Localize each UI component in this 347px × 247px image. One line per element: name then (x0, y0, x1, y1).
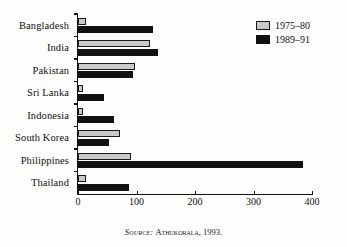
y-tick-mark (74, 148, 78, 149)
bar-indonesia-1989-91 (78, 116, 114, 123)
bar-india-1989-91 (78, 49, 158, 56)
y-tick-mark (74, 126, 78, 127)
x-tick-label-0: 0 (76, 196, 81, 207)
bar-group-indonesia (78, 104, 312, 127)
bar-philippines-1975-80 (78, 153, 131, 160)
bar-bangladesh-1989-91 (78, 26, 153, 33)
bar-thailand-1989-91 (78, 184, 129, 191)
x-tick-mark (312, 191, 313, 195)
bar-pakistan-1975-80 (78, 63, 135, 70)
y-tick-mark (74, 81, 78, 82)
y-tick-mark (74, 171, 78, 172)
x-tick-label-200: 200 (188, 196, 203, 207)
y-tick-mark (74, 103, 78, 104)
chart-figure: Bangladesh India Pakistan Sri Lanka Indo… (0, 0, 347, 247)
x-tick-mark (254, 191, 255, 195)
dark-swatch-icon (256, 35, 270, 44)
bar-india-1975-80 (78, 40, 150, 47)
x-tick-mark (137, 191, 138, 195)
light-swatch-icon (256, 21, 270, 30)
bar-indonesia-1975-80 (78, 108, 83, 115)
y-tick-mark (74, 13, 78, 14)
bar-south-korea-1989-91 (78, 139, 109, 146)
x-axis-ticks: 0100200300400 (78, 195, 312, 211)
y-axis-category-labels: Bangladesh India Pakistan Sri Lanka Indo… (0, 14, 74, 194)
y-axis-label-india: India (0, 37, 74, 60)
source-prefix: Source: (125, 227, 153, 237)
bar-south-korea-1975-80 (78, 130, 120, 137)
y-axis-label-sri-lanka: Sri Lanka (0, 82, 74, 105)
legend-item-1975-80: 1975–80 (256, 20, 310, 31)
y-axis-label-south-korea: South Korea (0, 127, 74, 150)
bar-group-sri-lanka (78, 82, 312, 105)
legend-item-1989-91: 1989–91 (256, 34, 310, 45)
source-caption: Source: Athukorala, 1993. (0, 227, 347, 237)
bar-bangladesh-1975-80 (78, 18, 86, 25)
x-tick-label-400: 400 (305, 196, 320, 207)
y-tick-mark (74, 58, 78, 59)
bar-sri-lanka-1975-80 (78, 85, 83, 92)
x-tick-label-100: 100 (129, 196, 144, 207)
y-axis-label-thailand: Thailand (0, 172, 74, 195)
y-axis-label-bangladesh: Bangladesh (0, 14, 74, 37)
bar-group-pakistan (78, 59, 312, 82)
bar-thailand-1975-80 (78, 175, 86, 182)
bar-group-south-korea (78, 127, 312, 150)
bar-philippines-1989-91 (78, 161, 303, 168)
x-tick-mark (195, 191, 196, 195)
bar-sri-lanka-1989-91 (78, 94, 104, 101)
y-axis-label-philippines: Philippines (0, 149, 74, 172)
bar-group-philippines (78, 149, 312, 172)
legend-label-1975-80: 1975–80 (275, 20, 310, 31)
bar-pakistan-1989-91 (78, 71, 133, 78)
y-tick-mark (74, 36, 78, 37)
x-tick-label-300: 300 (246, 196, 261, 207)
y-axis-label-indonesia: Indonesia (0, 104, 74, 127)
chart-legend: 1975–80 1989–91 (256, 20, 310, 45)
source-text: Athukorala, 1993. (155, 227, 222, 237)
x-tick-mark (78, 191, 79, 195)
y-axis-label-pakistan: Pakistan (0, 59, 74, 82)
legend-label-1989-91: 1989–91 (275, 34, 310, 45)
